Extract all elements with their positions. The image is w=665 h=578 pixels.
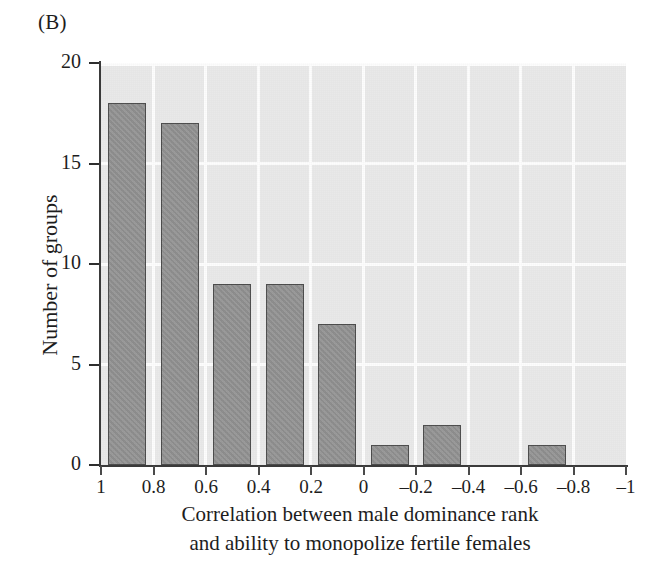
x-tick-label-4: 0.2	[281, 476, 341, 498]
x-tick-0	[100, 466, 102, 475]
x-tick-label-3: 0.4	[229, 476, 289, 498]
x-tick-9	[573, 466, 575, 475]
x-axis-title-line-1: Correlation between male dominance rank	[60, 500, 660, 529]
bar-4	[318, 324, 356, 465]
x-tick-3	[258, 466, 260, 475]
y-tick-15	[89, 163, 99, 165]
y-tick-label-10: 10	[15, 251, 81, 275]
bar-1	[161, 123, 199, 465]
y-tick-label-15: 15	[15, 151, 81, 175]
x-tick-1	[153, 466, 155, 475]
x-tick-7	[468, 466, 470, 475]
bar-8	[528, 445, 566, 465]
x-tick-label-0: 1	[71, 476, 131, 498]
y-tick-label-text-5: 5	[15, 352, 81, 375]
plot-area	[101, 63, 626, 465]
x-tick-6	[415, 466, 417, 475]
x-axis-title-line-2: and ability to monopolize fertile female…	[60, 529, 660, 558]
x-tick-label-6: –0.2	[386, 476, 446, 498]
bar-3	[266, 284, 304, 465]
x-tick-2	[205, 466, 207, 475]
bar-2	[213, 284, 251, 465]
x-tick-4	[310, 466, 312, 475]
x-axis-title: Correlation between male dominance rank …	[60, 500, 660, 558]
y-tick-label-text-10: 10	[15, 251, 81, 274]
y-tick-label-text-20: 20	[15, 50, 81, 73]
x-tick-label-7: –0.4	[439, 476, 499, 498]
y-tick-label-text-0: 0	[15, 452, 81, 475]
gridline-x-0	[362, 63, 365, 465]
y-tick-label-20: 20	[15, 50, 81, 74]
x-tick-label-1: 0.8	[124, 476, 184, 498]
y-tick-label-0: 0	[15, 452, 81, 476]
figure-panel-b: (B) Number of groups 05101520 10.80.60.4…	[0, 0, 665, 578]
x-tick-label-9: –0.8	[544, 476, 604, 498]
gridline-x-neg0.2	[414, 63, 417, 465]
gridline-x-0.4	[257, 63, 260, 465]
y-axis-line	[99, 61, 101, 467]
x-tick-label-2: 0.6	[176, 476, 236, 498]
gridline-x-0.8	[152, 63, 155, 465]
y-tick-5	[89, 364, 99, 366]
y-axis-title: Number of groups	[37, 65, 63, 485]
y-tick-label-text-15: 15	[15, 151, 81, 174]
x-tick-label-10: –1	[596, 476, 656, 498]
gridline-x-neg0.4	[467, 63, 470, 465]
x-tick-label-8: –0.6	[491, 476, 551, 498]
gridline-x-0.2	[309, 63, 312, 465]
bar-6	[423, 425, 461, 465]
bar-5	[371, 445, 409, 465]
panel-label: (B)	[38, 10, 67, 35]
gridline-x-0.6	[204, 63, 207, 465]
gridline-x-neg0.8	[572, 63, 575, 465]
x-tick-label-5: 0	[334, 476, 394, 498]
y-tick-0	[89, 464, 99, 466]
y-tick-label-5: 5	[15, 352, 81, 376]
y-tick-20	[89, 62, 99, 64]
x-tick-8	[520, 466, 522, 475]
x-tick-5	[363, 466, 365, 475]
bar-0	[108, 103, 146, 465]
x-tick-10	[625, 466, 627, 475]
gridline-x-neg0.6	[519, 63, 522, 465]
y-tick-10	[89, 263, 99, 265]
